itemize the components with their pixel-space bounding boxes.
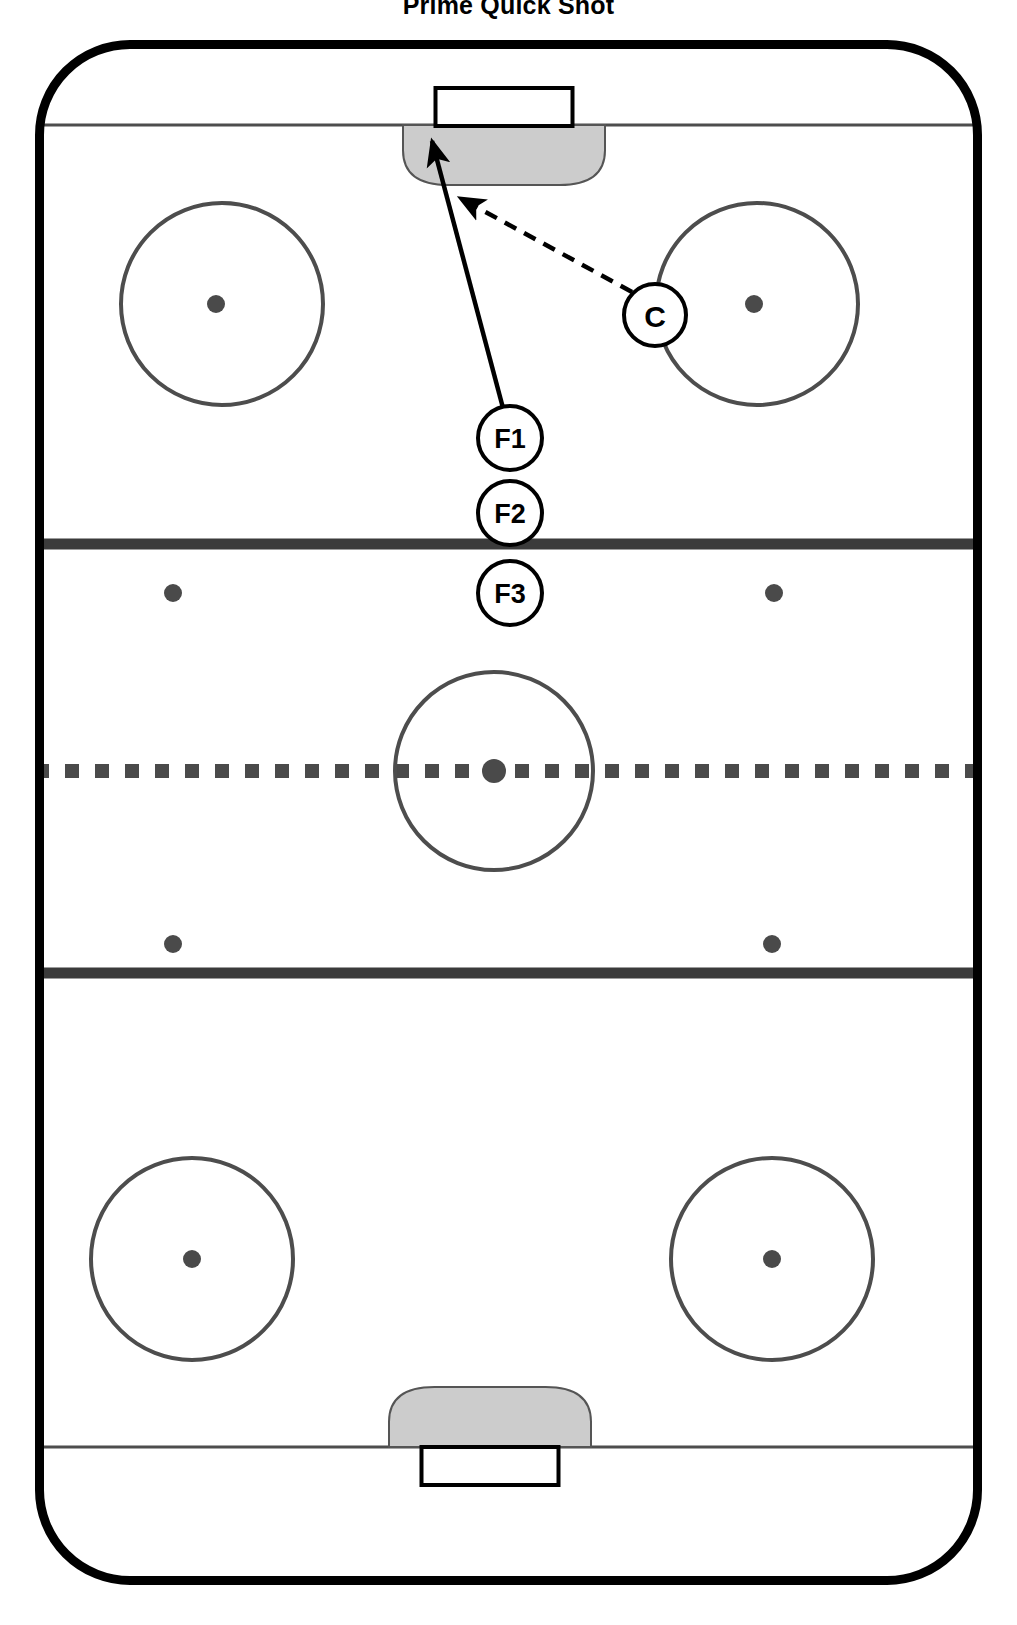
crease-bottom	[389, 1387, 591, 1447]
player-marker-f3-label: F3	[494, 579, 526, 609]
faceoff-dot-top-left	[207, 295, 225, 313]
faceoff-dot-neutral-top-right	[765, 584, 783, 602]
goal-bottom	[422, 1447, 559, 1485]
hockey-rink-diagram: CF1F2F3	[0, 0, 1017, 1625]
player-marker-c-label: C	[644, 300, 666, 333]
drill-diagram-page: Prime Quick Shot	[0, 0, 1017, 1625]
player-marker-f1-label: F1	[494, 424, 526, 454]
goal-top	[436, 88, 573, 126]
player-marker-f1[interactable]: F1	[478, 406, 542, 470]
player-marker-f3[interactable]: F3	[478, 561, 542, 625]
player-marker-c[interactable]: C	[624, 284, 686, 346]
faceoff-dot-neutral-bottom-right	[763, 935, 781, 953]
player-marker-f2-label: F2	[494, 499, 526, 529]
crease-top	[403, 125, 605, 185]
faceoff-dot-bottom-right	[763, 1250, 781, 1268]
faceoff-dot-top-right	[745, 295, 763, 313]
faceoff-dot-bottom-left	[183, 1250, 201, 1268]
faceoff-dot-center	[482, 759, 506, 783]
faceoff-dot-neutral-top-left	[164, 584, 182, 602]
ice-surface	[40, 45, 978, 1581]
player-marker-f2[interactable]: F2	[478, 481, 542, 545]
faceoff-dot-neutral-bottom-left	[164, 935, 182, 953]
